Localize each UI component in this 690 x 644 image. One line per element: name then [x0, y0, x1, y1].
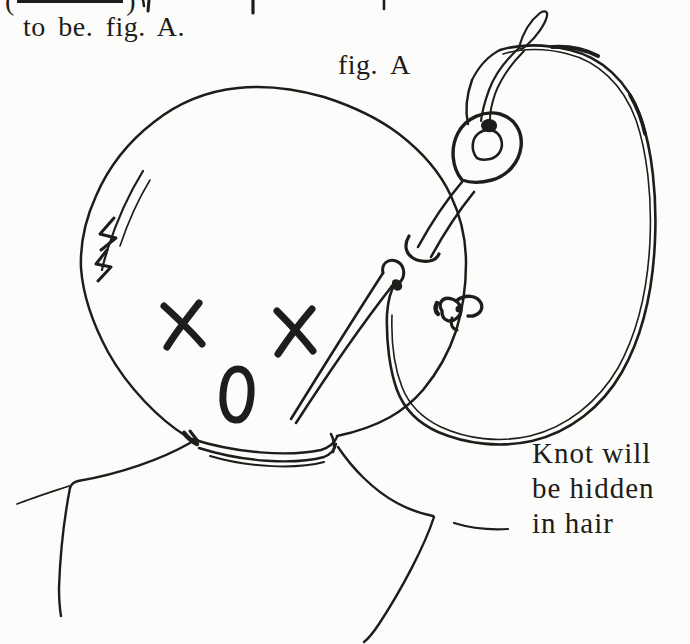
- head-outline: [81, 87, 466, 436]
- needle-eye-hole: [473, 130, 502, 160]
- book-page: () to be. fig. A. fig. A Knot will be hi…: [0, 0, 690, 644]
- open-paren: (: [5, 0, 14, 16]
- left-eye-x: [164, 303, 202, 347]
- inline-blank-rule: [17, 0, 123, 3]
- annotation-line: be hidden: [532, 471, 655, 506]
- thread-wrap-blob: [481, 119, 497, 132]
- right-eye-x: [277, 309, 313, 354]
- doll-head-sketch: [0, 0, 690, 644]
- neck-collar: [184, 431, 337, 466]
- figure-caption: fig. A: [338, 49, 411, 81]
- thread-tail-tip: [519, 11, 547, 48]
- mouth-o: [223, 369, 251, 420]
- annotation-line: in hair: [532, 506, 655, 541]
- hair-hatch-mark: [96, 250, 111, 281]
- thread: [387, 11, 656, 444]
- knot-annotation: Knot will be hidden in hair: [532, 436, 655, 541]
- needle: [291, 113, 521, 423]
- shoulders: [17, 443, 508, 642]
- body-text-line: to be. fig. A.: [23, 11, 185, 43]
- annotation-line: Knot will: [532, 436, 655, 471]
